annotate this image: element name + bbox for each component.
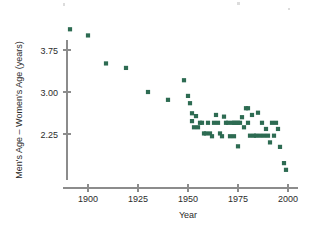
- chart-canvas: 19001925195019752000 2.253.003.75 Year M…: [0, 0, 310, 230]
- data-point: [270, 121, 274, 125]
- data-point: [190, 119, 194, 123]
- data-point: [256, 111, 260, 115]
- data-point: [192, 125, 196, 129]
- x-tick-label-2000: 2000: [278, 194, 298, 204]
- data-point: [104, 61, 108, 65]
- data-point: [242, 125, 246, 129]
- data-point: [272, 134, 276, 138]
- y-axis-tick-labels: 2.253.003.75: [40, 46, 58, 140]
- data-point: [260, 121, 264, 125]
- data-point: [262, 134, 266, 138]
- data-point: [284, 168, 288, 172]
- data-point: [250, 113, 254, 117]
- data-point: [228, 134, 232, 138]
- data-point: [188, 101, 192, 105]
- data-point: [220, 134, 224, 138]
- y-tick-label-3.75: 3.75: [40, 46, 58, 56]
- data-point: [216, 121, 220, 125]
- data-point: [278, 145, 282, 149]
- data-point: [258, 134, 262, 138]
- x-axis-title: Year: [179, 210, 197, 220]
- data-point: [186, 94, 190, 98]
- data-point: [146, 90, 150, 94]
- data-point: [206, 121, 210, 125]
- data-point: [200, 121, 204, 125]
- data-point: [264, 127, 268, 131]
- data-point: [276, 127, 280, 131]
- data-point: [182, 78, 186, 82]
- data-points: [68, 27, 288, 172]
- data-point: [210, 134, 214, 138]
- data-point: [274, 121, 278, 125]
- data-point: [222, 115, 226, 119]
- y-tick-label-2.25: 2.25: [40, 130, 58, 140]
- data-point: [226, 121, 230, 125]
- data-point: [268, 140, 272, 144]
- data-point: [124, 66, 128, 70]
- data-point: [282, 161, 286, 165]
- x-tick-label-1925: 1925: [128, 194, 148, 204]
- data-point: [68, 27, 72, 31]
- data-point: [196, 125, 200, 129]
- data-point: [190, 111, 194, 115]
- data-point: [194, 114, 198, 118]
- paper-specks: [63, 2, 290, 10]
- data-point: [232, 134, 236, 138]
- x-tick-label-1950: 1950: [178, 194, 198, 204]
- data-point: [166, 98, 170, 102]
- axes: [63, 40, 298, 188]
- data-point: [236, 144, 240, 148]
- data-point: [240, 115, 244, 119]
- y-axis-title: Men's Age – Women's Age (years): [14, 41, 24, 178]
- data-point: [86, 33, 90, 37]
- data-point: [212, 121, 216, 125]
- data-point: [246, 121, 250, 125]
- x-axis-tick-labels: 19001925195019752000: [78, 194, 298, 204]
- data-point: [248, 134, 252, 138]
- x-tick-label-1975: 1975: [228, 194, 248, 204]
- data-point: [266, 134, 270, 138]
- y-tick-label-3.00: 3.00: [40, 88, 58, 98]
- data-point: [204, 131, 208, 135]
- data-point: [254, 134, 258, 138]
- axis-ticks: [63, 50, 288, 192]
- scatter-plot-figure: 19001925195019752000 2.253.003.75 Year M…: [0, 0, 310, 230]
- x-tick-label-1900: 1900: [78, 194, 98, 204]
- data-point: [246, 106, 250, 110]
- data-point: [238, 121, 242, 125]
- data-point: [214, 113, 218, 117]
